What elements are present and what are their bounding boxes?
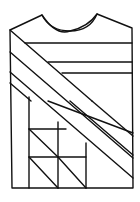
diagonal-line-4 [10,83,31,101]
grid-diagonal-3 [58,157,86,188]
grid-diagonal-2 [29,157,58,188]
grid-diagonal-1 [29,129,58,157]
diagonal-line-5 [48,101,133,133]
shirt-pattern-svg [0,0,140,202]
shirt-pattern-diagram [0,0,140,202]
diagonal-line-1 [10,30,92,101]
diagonal-line-6 [92,101,133,136]
